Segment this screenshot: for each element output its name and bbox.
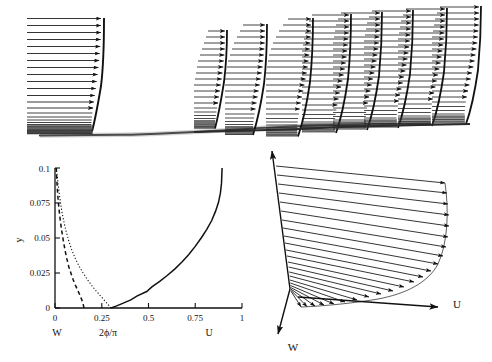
ytick-label-0: 0 [46,303,51,313]
xtick-label-05: 0.5 [143,313,155,323]
label-W-3d: W [288,341,299,353]
label-U-2d: U [205,327,213,338]
y-axis-label: y [13,238,24,243]
xtick-label-1: 1 [240,313,245,323]
xtick-label-025: 0.25 [94,313,110,323]
label-phi-2d: 2ϕ/π [99,327,117,338]
ytick-label-01: 0.1 [39,164,50,174]
ytick-label-0075: 0.075 [30,198,51,208]
ytick-label-005: 0.05 [34,233,50,243]
label-U-3d: U [453,298,461,310]
xtick-label-075: 0.75 [187,313,203,323]
label-W-2d: W [52,327,62,338]
scientific-figure: 0 0.025 0.05 0.075 0.1 0 0.25 0.5 0.75 1… [0,0,492,362]
figure-root: 0 0.025 0.05 0.075 0.1 0 0.25 0.5 0.75 1… [0,0,492,362]
xtick-label-0: 0 [53,313,58,323]
ytick-label-0025: 0.025 [30,268,51,278]
